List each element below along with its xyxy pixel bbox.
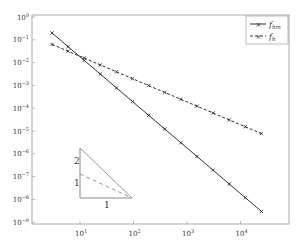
slope-label-2: 2 xyxy=(74,156,80,166)
x-marker-icon: × xyxy=(256,21,262,29)
x-marker-icon xyxy=(244,196,247,199)
x-tick-label: 102 xyxy=(129,228,141,238)
y-tick-label: 10−4 xyxy=(13,103,29,113)
y-tick-label: 10−3 xyxy=(13,80,29,90)
slope-label-1: 1 xyxy=(74,178,80,188)
y-tick-label: 100 xyxy=(17,12,29,22)
plot-frame xyxy=(32,15,289,224)
y-tick-label: 10−6 xyxy=(13,148,29,158)
x-marker-icon xyxy=(50,31,53,34)
run-label-1: 1 xyxy=(104,200,110,210)
x-tick-label: 101 xyxy=(75,228,87,238)
y-tick-label: 10−5 xyxy=(13,126,29,136)
x-marker-icon xyxy=(147,114,150,117)
y-tick-label: 10−8 xyxy=(13,194,29,204)
x-marker-icon xyxy=(211,169,214,172)
x-marker-icon xyxy=(99,73,102,76)
x-marker-icon xyxy=(131,100,134,103)
x-tick-label: 103 xyxy=(182,228,194,238)
slope-2-line xyxy=(80,148,132,198)
y-tick-label: 10−7 xyxy=(13,171,29,181)
legend: × fhm × fh xyxy=(246,16,288,44)
convergence-chart: 10010−110−210−310−410−510−610−710−810−9 … xyxy=(0,0,304,248)
x-marker-icon xyxy=(228,182,231,185)
slope-1-line xyxy=(80,174,132,198)
x-marker-icon xyxy=(260,210,263,213)
x-marker-icon xyxy=(195,155,198,158)
y-tick-label: 10−2 xyxy=(13,57,29,67)
y-tick-label: 10−1 xyxy=(13,34,29,44)
series-group xyxy=(50,31,263,213)
x-tick-label: 104 xyxy=(236,228,248,238)
x-marker-icon xyxy=(163,127,166,130)
x-marker-icon xyxy=(67,45,70,48)
x-marker-icon xyxy=(179,141,182,144)
slope-triangle: 2 1 1 xyxy=(74,148,132,210)
x-marker-icon xyxy=(115,86,118,89)
x-marker-icon: × xyxy=(256,33,262,41)
y-tick-label: 10−9 xyxy=(13,217,29,227)
